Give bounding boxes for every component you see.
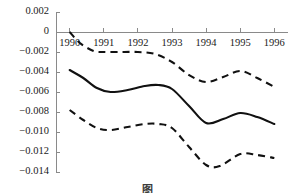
y-tick-label: −0.002 bbox=[19, 45, 49, 56]
y-axis-tick-marks bbox=[56, 12, 60, 172]
x-tick-label: 1995 bbox=[230, 37, 251, 48]
y-tick-label: −0.012 bbox=[19, 145, 49, 156]
y-tick-label: −0.014 bbox=[19, 165, 49, 176]
figure-caption: 图 bbox=[0, 184, 295, 193]
x-axis-tick-marks bbox=[70, 28, 275, 32]
series-lower-confidence-bound bbox=[70, 110, 275, 167]
y-tick-label: −0.004 bbox=[19, 65, 49, 76]
series-central-estimate bbox=[70, 70, 275, 124]
x-tick-label: 1996 bbox=[264, 37, 285, 48]
y-tick-label: −0.006 bbox=[19, 85, 49, 96]
x-axis-tick-labels: 1990199119921993199419951996 bbox=[59, 37, 285, 48]
y-tick-label: −0.010 bbox=[19, 125, 49, 136]
x-tick-label: 1992 bbox=[127, 37, 148, 48]
chart-figure: 0.0020−0.002−0.004−0.006−0.008−0.010−0.0… bbox=[0, 0, 295, 193]
x-tick-label: 1991 bbox=[93, 37, 114, 48]
x-tick-label: 1990 bbox=[59, 37, 80, 48]
x-tick-label: 1994 bbox=[196, 37, 218, 48]
y-tick-label: −0.008 bbox=[19, 105, 49, 116]
y-axis-tick-labels: 0.0020−0.002−0.004−0.006−0.008−0.010−0.0… bbox=[19, 5, 49, 176]
x-tick-label: 1993 bbox=[162, 37, 183, 48]
y-tick-label: 0.002 bbox=[25, 5, 49, 16]
line-chart-canvas: 0.0020−0.002−0.004−0.006−0.008−0.010−0.0… bbox=[0, 0, 295, 193]
y-tick-label: 0 bbox=[44, 25, 49, 36]
data-series-group bbox=[70, 32, 275, 167]
